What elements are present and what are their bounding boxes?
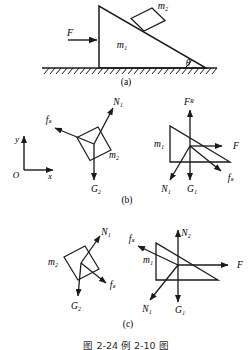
label-G2: G₂ <box>71 301 82 311</box>
label-fs: fₛ <box>129 234 136 244</box>
label-FR: Fᴿ <box>183 97 194 107</box>
label-force-F: F <box>66 27 74 38</box>
panel-label-b: (b) <box>121 195 132 206</box>
panel-label-c: (c) <box>123 319 134 330</box>
label-angle-theta: θ <box>186 58 191 68</box>
axis-label-x: x <box>47 171 52 181</box>
label-body-m2: m₂ <box>48 257 59 267</box>
figure-canvas: F m₁ m₂ θ (a) y O x N₁ fₛ G₂ m₂ <box>0 0 252 350</box>
label-body-m1: m₁ <box>154 139 164 149</box>
label-F: F <box>236 260 243 270</box>
figure-caption: 图 2-24 例 2-10 图 <box>83 340 168 350</box>
label-F: F <box>232 141 239 151</box>
label-G2: G₂ <box>91 184 102 194</box>
label-block-m2: m₂ <box>158 0 169 11</box>
label-body-m1: m₁ <box>143 255 153 265</box>
label-fs: fₛ <box>110 280 117 290</box>
label-N2: N₂ <box>180 228 191 238</box>
label-fs: fₛ <box>46 115 53 125</box>
axis-label-y: y <box>14 134 19 144</box>
label-G1: G₁ <box>187 184 197 194</box>
label-N1: N₁ <box>141 304 152 314</box>
label-N1: N₁ <box>160 184 171 194</box>
canvas-background <box>0 0 252 350</box>
physics-figure: F m₁ m₂ θ (a) y O x N₁ fₛ G₂ m₂ <box>0 0 252 350</box>
label-fs: fₛ <box>228 173 235 183</box>
panel-label-a: (a) <box>121 77 132 88</box>
label-N1: N₁ <box>100 227 111 237</box>
axis-label-origin: O <box>13 170 20 180</box>
label-wedge-m1: m₁ <box>117 39 128 50</box>
label-G1: G₁ <box>175 305 185 315</box>
label-N1: N₁ <box>112 97 123 107</box>
label-body-m2: m₂ <box>109 150 120 160</box>
